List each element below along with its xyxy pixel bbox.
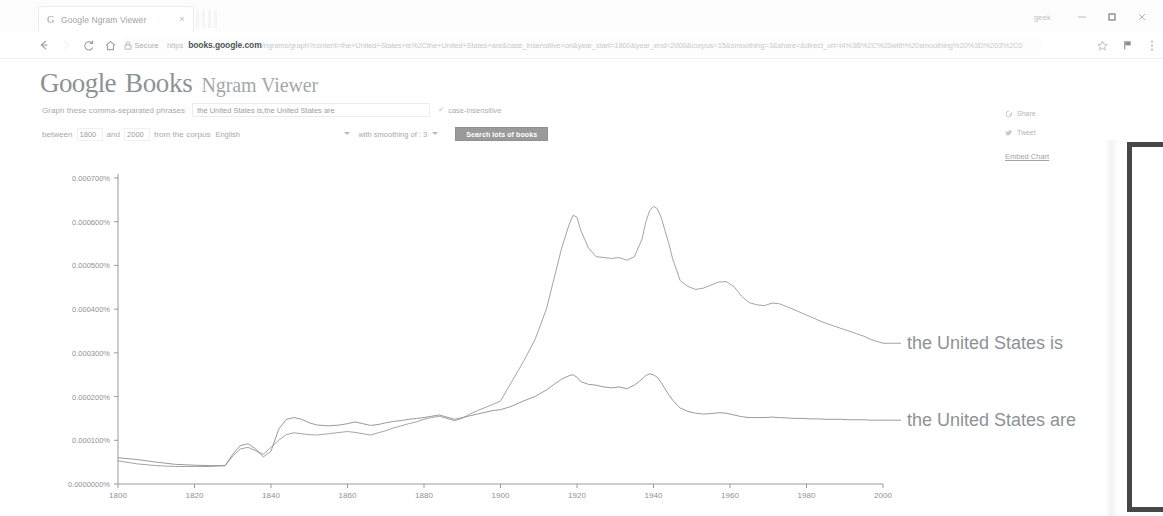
y-tick-label: 0.000200%: [72, 393, 110, 402]
right-edge-dark-frame: [1127, 142, 1163, 512]
x-tick-label: 1800: [109, 491, 127, 500]
x-tick-label: 1840: [262, 491, 280, 500]
phrases-label: Graph these comma-separated phrases: [42, 106, 185, 115]
page-title: Ngram Viewer: [201, 75, 318, 95]
x-tick-label: 1980: [798, 491, 816, 500]
series-label[interactable]: the United States is: [907, 333, 1063, 353]
corpus-label: from the corpus: [154, 130, 210, 139]
series-line[interactable]: [118, 374, 883, 466]
lock-icon: [124, 41, 132, 50]
home-icon[interactable]: [99, 34, 121, 56]
kebab-menu-icon[interactable]: [1145, 39, 1159, 52]
year-start-input[interactable]: [77, 128, 103, 141]
minimize-button[interactable]: [1067, 6, 1097, 28]
security-indicator[interactable]: Secure: [122, 41, 159, 50]
phrases-input[interactable]: [192, 103, 430, 117]
forward-icon[interactable]: [55, 34, 77, 56]
google-wordmark[interactable]: Google: [40, 70, 116, 97]
case-insensitive-toggle[interactable]: ✓ case-insensitive: [438, 106, 501, 115]
url-scheme: https: [167, 41, 183, 50]
checkmark-icon: ✓: [438, 106, 445, 114]
ngram-chart[interactable]: 0.0000000%0.000100%0.000200%0.000300%0.0…: [40, 164, 1115, 514]
year-end-input[interactable]: [124, 128, 150, 141]
books-wordmark[interactable]: Books: [125, 70, 193, 97]
url-path: /ngrams/graph?content=the+United+States+…: [262, 41, 1042, 50]
star-icon[interactable]: [1095, 40, 1109, 51]
corpus-select[interactable]: English: [215, 128, 353, 141]
site-header: Google Books Ngram Viewer: [40, 70, 318, 97]
y-tick-label: 0.000100%: [72, 436, 110, 445]
corpus-select-value: English: [215, 128, 353, 141]
page-right-edge-shading: [1105, 140, 1119, 516]
browser-tab-title: Google Ngram Viewer: [61, 15, 172, 25]
y-tick-label: 0.000300%: [72, 349, 110, 358]
smoothing-select[interactable]: with smoothing of : 3: [358, 128, 441, 141]
close-icon[interactable]: ×: [177, 15, 187, 24]
screenshot-root: G Google Ngram Viewer × geek: [0, 0, 1163, 516]
x-tick-label: 1900: [492, 491, 510, 500]
query-row: Graph these comma-separated phrases ✓ ca…: [42, 103, 502, 117]
y-tick-label: 0.000500%: [72, 261, 110, 270]
address-bar[interactable]: Secure https books.google.com /ngrams/gr…: [122, 36, 1042, 54]
tab-strip-filler: [196, 10, 228, 28]
secure-label: Secure: [135, 41, 159, 50]
profile-label[interactable]: geek: [1034, 13, 1051, 22]
y-tick-label: 0.000400%: [72, 305, 110, 314]
y-tick-label: 0.0000000%: [68, 480, 110, 489]
reload-icon[interactable]: [77, 34, 99, 56]
tweet-button[interactable]: Tweet: [1005, 126, 1125, 139]
between-label: between: [42, 130, 73, 139]
search-button[interactable]: Search lots of books: [455, 127, 548, 141]
x-tick-label: 1880: [415, 491, 433, 500]
series-label[interactable]: the United States are: [907, 410, 1076, 430]
share-button[interactable]: Share: [1005, 107, 1125, 120]
x-tick-label: 2000: [874, 491, 892, 500]
window-close-button[interactable]: [1127, 6, 1157, 28]
embed-chart-link[interactable]: Embed Chart: [1005, 152, 1049, 161]
browser-tab-strip: G Google Ngram Viewer × geek: [0, 0, 1163, 32]
series-line[interactable]: [118, 206, 883, 466]
and-label: and: [107, 130, 121, 139]
maximize-button[interactable]: [1097, 6, 1127, 28]
tweet-label: Tweet: [1017, 129, 1036, 136]
google-plus-icon: [1005, 110, 1013, 118]
options-row: between and from the corpus English with…: [42, 126, 548, 142]
browser-tab[interactable]: G Google Ngram Viewer ×: [38, 6, 194, 32]
x-tick-label: 1820: [186, 491, 204, 500]
back-icon[interactable]: [33, 34, 55, 56]
y-tick-label: 0.000600%: [72, 218, 110, 227]
x-tick-label: 1920: [568, 491, 586, 500]
ngram-chart-svg[interactable]: 0.0000000%0.000100%0.000200%0.000300%0.0…: [40, 164, 1115, 514]
page-content: Google Books Ngram Viewer Graph these co…: [0, 59, 1163, 516]
y-tick-label: 0.000700%: [72, 174, 110, 183]
share-label: Share: [1017, 110, 1036, 117]
url-host: books.google.com: [188, 40, 262, 50]
chevron-down-icon: [432, 132, 438, 135]
flag-icon[interactable]: [1120, 39, 1134, 51]
toolbar-right-actions: [1095, 34, 1159, 56]
x-tick-label: 1960: [721, 491, 739, 500]
smoothing-select-value: with smoothing of : 3: [358, 128, 441, 141]
google-g-icon: G: [45, 14, 56, 25]
window-controls: geek: [1034, 6, 1157, 28]
x-tick-label: 1860: [339, 491, 357, 500]
chevron-down-icon: [344, 132, 350, 135]
x-tick-label: 1940: [645, 491, 663, 500]
twitter-bird-icon: [1005, 129, 1013, 137]
case-insensitive-label: case-insensitive: [448, 106, 501, 115]
